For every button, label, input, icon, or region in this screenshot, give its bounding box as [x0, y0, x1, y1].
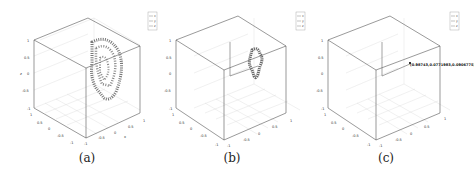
- scatter-points: [92, 39, 122, 99]
- svg-text:0: 0: [410, 132, 412, 136]
- svg-text:-1: -1: [227, 144, 231, 148]
- svg-text:-1: -1: [70, 141, 74, 145]
- svg-text:0.5: 0.5: [24, 56, 30, 60]
- svg-text:1: 1: [172, 113, 174, 117]
- svg-text:0.5: 0.5: [166, 56, 172, 60]
- svg-text:-1: -1: [379, 144, 383, 148]
- svg-text:-0.5: -0.5: [316, 89, 323, 93]
- svg-text:1: 1: [27, 39, 29, 43]
- svg-text:0.5: 0.5: [318, 56, 324, 60]
- svg-text:-0.5: -0.5: [57, 134, 64, 138]
- svg-text:0: 0: [342, 127, 344, 131]
- grid-lines: [34, 18, 140, 134]
- svg-text:1: 1: [321, 39, 323, 43]
- svg-text:0: 0: [169, 72, 171, 76]
- z-axis-ticks: 1 0.5 0 -0.5 -1 z: [20, 39, 31, 111]
- svg-text:-0.5: -0.5: [164, 89, 171, 93]
- svg-text:0.5: 0.5: [272, 125, 278, 129]
- svg-text:0: 0: [48, 127, 50, 131]
- svg-text:-1: -1: [84, 142, 88, 146]
- panel-c: (0.98743,0.0771983,0.0906775) 1 0.5 0 -0…: [316, 0, 474, 179]
- svg-text:x: x: [302, 14, 304, 18]
- x-axis-ticks: -1 -0.5 0 0.5 1 x: [84, 119, 145, 146]
- svg-text:x: x: [456, 14, 458, 18]
- svg-text:1: 1: [143, 119, 145, 123]
- svg-text:y: y: [456, 19, 458, 23]
- svg-text:1: 1: [444, 117, 446, 121]
- svg-text:0.5: 0.5: [424, 125, 430, 129]
- svg-text:-0.5: -0.5: [395, 138, 402, 142]
- z-axis-ticks: 1 0.5 0 -0.5 -1: [316, 39, 325, 111]
- svg-text:-0.5: -0.5: [22, 89, 29, 93]
- svg-text:0.5: 0.5: [331, 121, 337, 125]
- svg-text:-0.5: -0.5: [98, 136, 105, 140]
- svg-text:1: 1: [169, 39, 171, 43]
- svg-text:-0.5: -0.5: [352, 134, 359, 138]
- caption-c: (c): [366, 151, 406, 165]
- svg-text:1: 1: [290, 119, 292, 123]
- y-axis-ticks: 1 0.5 0 -0.5 -1: [30, 113, 74, 145]
- svg-text:0.5: 0.5: [179, 121, 185, 125]
- x-axis-ticks: -1 -0.5 0 0.5 1: [379, 117, 446, 148]
- scatter-cluster: [249, 49, 262, 78]
- svg-text:1: 1: [30, 113, 32, 117]
- svg-text:0: 0: [190, 127, 192, 131]
- svg-text:0: 0: [321, 72, 323, 76]
- svg-text:-1: -1: [27, 107, 31, 111]
- point-annotation: (0.98743,0.0771983,0.0906775): [410, 63, 474, 67]
- axes-box: [328, 16, 440, 140]
- svg-text:0: 0: [27, 72, 29, 76]
- svg-text:-1: -1: [367, 143, 371, 147]
- svg-text:-1: -1: [321, 107, 325, 111]
- svg-text:x: x: [124, 135, 126, 139]
- legend: x y z: [148, 12, 157, 30]
- svg-text:-1: -1: [169, 107, 173, 111]
- grid-lines: [346, 18, 450, 134]
- caption-b: (b): [212, 151, 252, 165]
- svg-text:y: y: [302, 19, 304, 23]
- svg-text:z: z: [20, 72, 22, 76]
- legend: x y z: [450, 12, 459, 30]
- svg-text:0: 0: [258, 132, 260, 136]
- svg-text:y: y: [154, 19, 156, 23]
- svg-text:1: 1: [324, 113, 326, 117]
- svg-text:-0.5: -0.5: [243, 138, 250, 142]
- svg-text:0.5: 0.5: [37, 121, 43, 125]
- legend: x y z: [296, 12, 305, 30]
- svg-text:0: 0: [114, 131, 116, 135]
- z-axis-ticks: 1 0.5 0 -0.5 -1: [164, 39, 173, 111]
- panel-a: 1 0.5 0 -0.5 -1 z 1 0.5 0 -0.5 -1 -1 -0.…: [0, 0, 158, 179]
- svg-text:-1: -1: [215, 143, 219, 147]
- y-axis-ticks: 1 0.5 0 -0.5 -1: [324, 113, 371, 147]
- svg-text:-0.5: -0.5: [200, 134, 207, 138]
- axes-box: [176, 16, 286, 140]
- grid-lines: [194, 18, 300, 134]
- svg-text:0.5: 0.5: [128, 125, 134, 129]
- caption-a: (a): [67, 151, 107, 165]
- svg-text:x: x: [154, 14, 156, 18]
- panel-b: 1 0.5 0 -0.5 -1 1 0.5 0 -0.5 -1 -1 -0.5 …: [160, 0, 318, 179]
- y-axis-ticks: 1 0.5 0 -0.5 -1: [172, 113, 219, 147]
